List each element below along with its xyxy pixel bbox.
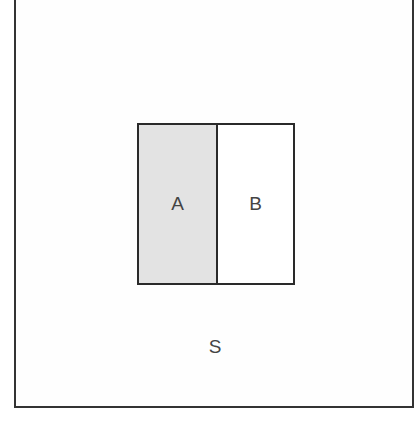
region-b-label: B xyxy=(218,193,293,215)
sample-space-label: S xyxy=(200,336,230,358)
region-a-label: A xyxy=(139,193,216,215)
event-rectangle: A B xyxy=(137,123,295,285)
region-b: B xyxy=(218,125,293,283)
region-a: A xyxy=(139,125,218,283)
